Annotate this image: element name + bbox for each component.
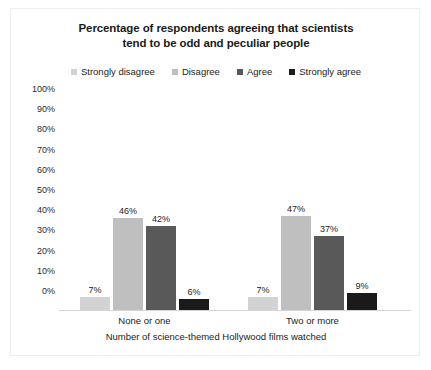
y-axis-tick: 60%	[9, 165, 55, 175]
bar-wrap: 9%	[347, 109, 377, 311]
x-axis-line	[59, 310, 411, 311]
bar-wrap: 37%	[314, 109, 344, 311]
bar-value-label: 7%	[256, 285, 269, 295]
chart-title: Percentage of respondents agreeing that …	[11, 21, 421, 51]
bar-wrap: 6%	[179, 109, 209, 311]
legend-label: Agree	[247, 66, 272, 77]
legend-swatch-icon	[289, 69, 295, 75]
legend-swatch-icon	[237, 69, 243, 75]
bar-strongly-disagree[interactable]	[80, 297, 110, 311]
chart-legend: Strongly disagree Disagree Agree Strongl…	[11, 66, 421, 77]
y-axis-tick: 20%	[9, 246, 55, 256]
x-axis-category-label: None or one	[77, 315, 212, 326]
bar-wrap: 7%	[80, 109, 110, 311]
legend-item-disagree[interactable]: Disagree	[172, 66, 220, 77]
bar-group: 7% 47% 37% 9%	[245, 109, 380, 311]
bar-wrap: 42%	[146, 109, 176, 311]
chart-title-line-2: tend to be odd and peculiar people	[11, 36, 421, 51]
chart-container: Percentage of respondents agreeing that …	[10, 8, 420, 356]
bar-wrap: 46%	[113, 109, 143, 311]
y-axis-tick: 30%	[9, 225, 55, 235]
bar-value-label: 46%	[119, 206, 137, 216]
bar-wrap: 47%	[281, 109, 311, 311]
bar-agree[interactable]	[146, 226, 176, 311]
y-axis-tick: 100%	[9, 84, 55, 94]
legend-item-strongly-disagree[interactable]: Strongly disagree	[71, 66, 155, 77]
x-axis-category-label: Two or more	[245, 315, 380, 326]
chart-title-line-1: Percentage of respondents agreeing that …	[11, 21, 421, 36]
x-axis-title: Number of science-themed Hollywood films…	[11, 331, 421, 342]
legend-swatch-icon	[71, 69, 77, 75]
bar-group: 7% 46% 42% 6%	[77, 109, 212, 311]
legend-item-agree[interactable]: Agree	[237, 66, 272, 77]
bar-value-label: 6%	[187, 287, 200, 297]
y-axis-tick: 90%	[9, 104, 55, 114]
y-axis-tick: 70%	[9, 145, 55, 155]
legend-swatch-icon	[172, 69, 178, 75]
bar-disagree[interactable]	[281, 216, 311, 311]
legend-item-strongly-agree[interactable]: Strongly agree	[289, 66, 361, 77]
y-axis-tick: 80%	[9, 124, 55, 134]
bar-value-label: 7%	[88, 285, 101, 295]
legend-label: Strongly disagree	[81, 66, 155, 77]
bar-value-label: 37%	[320, 224, 338, 234]
bar-wrap: 7%	[248, 109, 278, 311]
legend-label: Strongly agree	[299, 66, 361, 77]
y-axis-tick: 10%	[9, 266, 55, 276]
legend-label: Disagree	[182, 66, 220, 77]
bar-value-label: 47%	[287, 204, 305, 214]
y-axis-tick: 50%	[9, 185, 55, 195]
bar-disagree[interactable]	[113, 218, 143, 311]
bar-value-label: 9%	[355, 281, 368, 291]
plot-area: 100% 90% 80% 70% 60% 50% 40% 30% 20% 10%…	[59, 89, 411, 311]
bar-agree[interactable]	[314, 236, 344, 311]
bar-strongly-disagree[interactable]	[248, 297, 278, 311]
bar-value-label: 42%	[152, 214, 170, 224]
bar-strongly-agree[interactable]	[347, 293, 377, 311]
y-axis-tick: 40%	[9, 205, 55, 215]
y-axis-tick: 0%	[9, 286, 55, 296]
